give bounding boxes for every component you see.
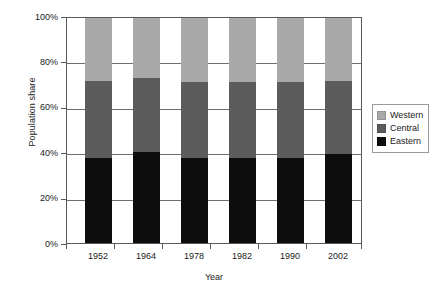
x-axis-title: Year [66,272,362,282]
bar-segment-eastern-1990[interactable] [277,158,304,244]
x-tick-mark-1 [114,244,115,249]
legend-label-central: Central [390,123,419,134]
legend-item-eastern[interactable]: Eastern [377,135,423,148]
x-tick-mark-start [66,244,67,249]
y-tick-label-0: 0% [0,239,58,249]
legend-item-central[interactable]: Central [377,122,423,135]
x-tick-mark-3 [210,244,211,249]
bar-segment-eastern-1952[interactable] [85,158,112,244]
bar-segment-central-1982[interactable] [229,82,256,157]
y-tick-label-40: 40% [0,148,58,158]
y-tick-label-60: 60% [0,102,58,112]
bar-segment-central-1990[interactable] [277,82,304,157]
x-tick-label-2002: 2002 [308,251,368,261]
bar-segment-western-2002[interactable] [325,18,352,81]
y-tick-label-20: 20% [0,193,58,203]
legend-swatch-western [377,111,386,120]
bar-segment-western-1990[interactable] [277,18,304,82]
bar-segment-central-1964[interactable] [133,78,160,152]
bar-segment-central-1952[interactable] [85,81,112,158]
legend-swatch-central [377,124,386,133]
legend-item-western[interactable]: Western [377,109,423,122]
stacked-bar-chart: Population share 100% 80% 60% 40% 20% 0%… [0,0,440,301]
plot-area [66,17,362,244]
y-tick-label-80: 80% [0,57,58,67]
legend-label-eastern: Eastern [390,136,421,147]
bar-segment-eastern-1964[interactable] [133,152,160,243]
legend-label-western: Western [390,110,423,121]
bar-segment-western-1978[interactable] [181,18,208,82]
bar-segment-western-1952[interactable] [85,18,112,81]
bar-segment-eastern-1978[interactable] [181,158,208,244]
bar-segment-central-2002[interactable] [325,81,352,154]
x-tick-mark-2 [162,244,163,249]
y-axis-title: Population share [27,32,37,192]
y-tick-label-100: 100% [0,12,58,22]
x-tick-mark-4 [258,244,259,249]
x-tick-mark-end [361,244,362,249]
bar-segment-eastern-1982[interactable] [229,158,256,244]
legend-swatch-eastern [377,137,386,146]
bar-segment-western-1964[interactable] [133,18,160,78]
bar-segment-central-1978[interactable] [181,82,208,157]
bar-segment-western-1982[interactable] [229,18,256,82]
legend: Western Central Eastern [372,104,429,153]
x-tick-mark-5 [306,244,307,249]
bar-segment-eastern-2002[interactable] [325,154,352,243]
